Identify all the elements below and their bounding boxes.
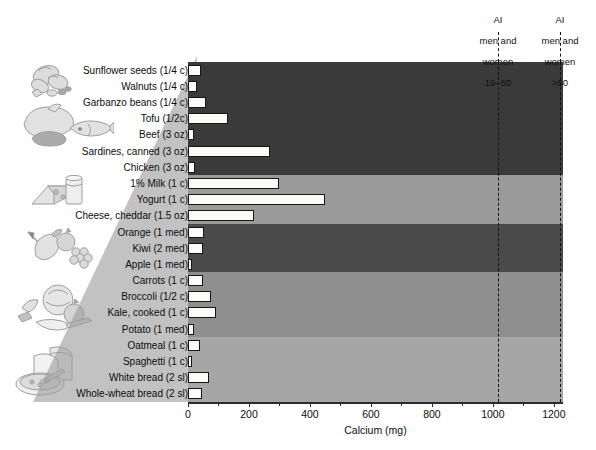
group-band-vegetables [188, 272, 563, 337]
bar [188, 129, 194, 140]
x-tick [249, 402, 250, 407]
bar [188, 243, 203, 254]
category-label: Potato (1 med) [0, 324, 188, 335]
ai-label-over-50: AI men and women >50 [518, 5, 596, 99]
category-label: Cheese, cheddar (1.5 oz) [0, 210, 188, 221]
x-tick [432, 402, 433, 407]
x-tick-minor [218, 402, 219, 406]
ai-line-1200 [560, 62, 561, 402]
category-label: Tofu (1/2c) [0, 113, 188, 124]
calcium-content-chart: Sunflower seeds (1/4 c)Walnuts (1/4 c)Ga… [0, 0, 596, 450]
bar [188, 210, 254, 221]
category-label: Garbanzo beans (1/4 c) [0, 97, 188, 108]
x-tick [188, 402, 189, 407]
category-label: Oatmeal (1 c) [0, 340, 188, 351]
category-label: Spaghetti (1 c) [0, 356, 188, 367]
ai-label-over-50-line3: women [518, 57, 596, 67]
bar [188, 307, 216, 318]
bar [188, 146, 270, 157]
bar [188, 162, 195, 173]
x-tick-minor [340, 402, 341, 406]
category-label: Whole-wheat bread (2 sl) [0, 388, 188, 399]
x-tick-minor [462, 402, 463, 406]
category-label: 1% Milk (1 c) [0, 178, 188, 189]
bar [188, 113, 228, 124]
category-label: Kale, cooked (1 c) [0, 307, 188, 318]
bar [188, 65, 201, 76]
x-tick [371, 402, 372, 407]
category-label: Carrots (1 c) [0, 275, 188, 286]
category-label: Orange (1 med) [0, 227, 188, 238]
category-label: Chicken (3 oz) [0, 162, 188, 173]
bar [188, 259, 192, 270]
bar [188, 388, 202, 399]
x-tick [554, 402, 555, 407]
x-tick-label: 200 [224, 408, 274, 420]
x-tick [493, 402, 494, 407]
x-tick-label: 1000 [468, 408, 518, 420]
x-tick-minor [523, 402, 524, 406]
bar [188, 324, 194, 335]
x-axis-title: Calcium (mg) [188, 424, 563, 436]
category-label: Apple (1 med) [0, 259, 188, 270]
category-label: Sardines, canned (3 oz) [0, 146, 188, 157]
group-band-fruits [188, 224, 563, 273]
figure-caption [120, 441, 480, 450]
ai-line-1000 [498, 62, 499, 402]
x-tick [310, 402, 311, 407]
bar [188, 97, 206, 108]
ai-label-over-50-line2: men and [518, 36, 596, 46]
category-label: Broccoli (1/2 c) [0, 291, 188, 302]
bar [188, 178, 279, 189]
category-label: White bread (2 sl) [0, 372, 188, 383]
bar [188, 194, 325, 205]
bar [188, 340, 200, 351]
x-tick-minor [279, 402, 280, 406]
ai-label-over-50-line1: AI [518, 15, 596, 25]
x-tick-minor [401, 402, 402, 406]
category-label: Kiwi (2 med) [0, 243, 188, 254]
category-label: Beef (3 oz) [0, 129, 188, 140]
x-tick-label: 800 [407, 408, 457, 420]
category-label-list: Sunflower seeds (1/4 c)Walnuts (1/4 c)Ga… [0, 62, 188, 402]
x-tick-label: 600 [346, 408, 396, 420]
bar [188, 356, 192, 367]
category-label: Sunflower seeds (1/4 c) [0, 65, 188, 76]
x-tick-label: 0 [163, 408, 213, 420]
x-tick-label: 400 [285, 408, 335, 420]
plot-area [188, 62, 563, 402]
x-tick-label: 1200 [529, 408, 579, 420]
category-label: Yogurt (1 c) [0, 194, 188, 205]
group-band-grains [188, 337, 563, 402]
x-axis-line [188, 402, 563, 404]
bar [188, 227, 204, 238]
bar [188, 275, 203, 286]
category-label: Walnuts (1/4 c) [0, 81, 188, 92]
bar [188, 372, 209, 383]
bar [188, 291, 211, 302]
bar [188, 81, 197, 92]
ai-label-over-50-line4: >50 [518, 78, 596, 88]
